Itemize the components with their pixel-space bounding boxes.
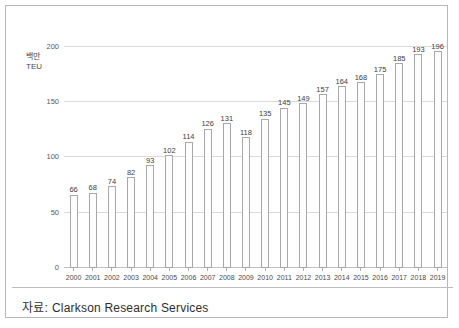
y-axis-tick-label: 150 [46, 96, 59, 105]
bar[interactable]: 68 [89, 193, 97, 268]
x-axis-tick-mark [265, 268, 266, 271]
bar-slot: 185 [390, 30, 409, 268]
bar-value-label: 149 [297, 94, 310, 103]
bar[interactable]: 82 [127, 177, 135, 268]
x-axis-tick-mark [169, 268, 170, 271]
bar-value-label: 93 [146, 156, 154, 165]
x-axis-tick-label: 2009 [238, 274, 254, 281]
bar[interactable]: 145 [280, 108, 288, 269]
bar-value-label: 68 [89, 183, 97, 192]
bar[interactable]: 118 [242, 137, 250, 268]
bar-value-label: 145 [278, 98, 291, 107]
bar-slot: 131 [217, 30, 236, 268]
bar-slot: 114 [179, 30, 198, 268]
y-axis-tick-label: 50 [51, 207, 59, 216]
bar[interactable]: 126 [204, 129, 212, 268]
bar-slot: 118 [236, 30, 255, 268]
bar[interactable]: 93 [146, 165, 154, 268]
bar-slot: 164 [332, 30, 351, 268]
x-axis-tick-mark [322, 268, 323, 271]
x-axis-tick-label: 2014 [334, 274, 350, 281]
caption-divider [12, 287, 453, 288]
x-axis-tick-label: 2007 [200, 274, 216, 281]
bar[interactable]: 193 [414, 54, 422, 268]
x-axis-tick-mark [284, 268, 285, 271]
x-axis-tick-mark [399, 268, 400, 271]
figure-frame: 백만 TEU 050100150200 66687482931021141261… [5, 5, 448, 318]
bar-slot: 126 [198, 30, 217, 268]
bar-value-label: 168 [355, 73, 368, 82]
bar-slot: 68 [83, 30, 102, 268]
bar-series: 6668748293102114126131118135145149157164… [64, 30, 447, 268]
y-axis-tick-label: 200 [46, 41, 59, 50]
x-axis-tick-mark [245, 268, 246, 271]
x-axis-tick-label: 2001 [85, 274, 101, 281]
x-axis-tick-label: 2016 [372, 274, 388, 281]
bar[interactable]: 149 [299, 103, 307, 268]
bar-value-label: 118 [240, 128, 252, 137]
bar[interactable]: 164 [338, 86, 346, 268]
bar[interactable]: 74 [108, 186, 116, 268]
bar-value-label: 114 [183, 132, 195, 141]
x-axis-tick-label: 2010 [257, 274, 273, 281]
x-axis-tick-label: 2000 [66, 274, 82, 281]
plot-area: 050100150200 666874829310211412613111813… [64, 30, 447, 268]
bar-slot: 82 [121, 30, 140, 268]
x-axis-tick-label: 2008 [219, 274, 235, 281]
bar[interactable]: 135 [261, 119, 269, 268]
bar-value-label: 157 [316, 85, 329, 94]
x-axis-tick-label: 2017 [391, 274, 407, 281]
figure-container: 백만 TEU 050100150200 66687482931021141261… [0, 0, 459, 328]
bar-value-label: 135 [259, 109, 272, 118]
bar[interactable]: 131 [223, 123, 231, 268]
x-axis-tick-mark [303, 268, 304, 271]
bar-value-label: 126 [201, 119, 214, 128]
bar-value-label: 102 [163, 146, 176, 155]
x-axis-tick-label: 2018 [411, 274, 427, 281]
x-axis-tick-mark [341, 268, 342, 271]
bar-slot: 175 [371, 30, 390, 268]
bar-slot: 93 [141, 30, 160, 268]
bar-slot: 74 [102, 30, 121, 268]
x-axis-tick-mark [437, 268, 438, 271]
y-axis-unit-line-1: 백만 [26, 52, 60, 62]
bar-value-label: 66 [69, 185, 77, 194]
x-axis-tick-mark [111, 268, 112, 271]
bar-slot: 149 [294, 30, 313, 268]
x-axis-tick-label: 2002 [104, 274, 120, 281]
bar-value-label: 193 [412, 45, 425, 54]
y-axis-tick-label: 0 [55, 263, 59, 272]
x-axis-tick-mark [226, 268, 227, 271]
x-axis-tick-label: 2005 [162, 274, 178, 281]
bar[interactable]: 185 [395, 63, 403, 268]
bar[interactable]: 157 [319, 94, 327, 268]
x-axis-tick-label: 2004 [142, 274, 158, 281]
bar-slot: 157 [313, 30, 332, 268]
bar[interactable]: 114 [185, 142, 193, 268]
bar[interactable]: 168 [357, 82, 365, 268]
bar-value-label: 164 [336, 77, 349, 86]
x-axis-tick-label: 2019 [430, 274, 446, 281]
x-axis-tick-label: 2015 [353, 274, 369, 281]
x-axis-tick-label: 2011 [277, 274, 292, 281]
bar-value-label: 74 [108, 177, 116, 186]
bar[interactable]: 102 [165, 155, 173, 268]
bar[interactable]: 196 [434, 51, 442, 268]
bar-value-label: 175 [374, 65, 387, 74]
source-note: 자료:Clarkson Research Services [22, 298, 209, 315]
bar[interactable]: 175 [376, 74, 384, 268]
x-axis-tick-mark [73, 268, 74, 271]
bar[interactable]: 66 [70, 195, 78, 268]
bar-slot: 145 [275, 30, 294, 268]
bar-slot: 168 [351, 30, 370, 268]
chart-region: 백만 TEU 050100150200 66687482931021141261… [12, 12, 453, 286]
x-axis-tick-mark [418, 268, 419, 271]
x-axis-tick-mark [360, 268, 361, 271]
x-axis-tick-label: 2006 [181, 274, 197, 281]
bar-slot: 193 [409, 30, 428, 268]
x-axis-tick-label: 2012 [296, 274, 312, 281]
bar-slot: 135 [256, 30, 275, 268]
x-axis-tick-label: 2013 [315, 274, 331, 281]
x-axis-tick-label: 2003 [123, 274, 139, 281]
x-axis-tick-mark [150, 268, 151, 271]
